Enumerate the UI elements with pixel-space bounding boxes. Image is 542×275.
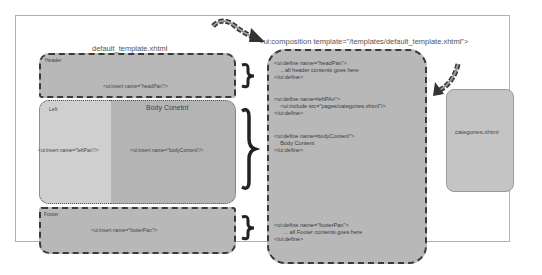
composition-left-block: <ui:define name=leftPAn"> <ui:include sr…: [274, 96, 386, 118]
brace-icons: [238, 55, 268, 255]
header-insert: <ui:insert name="headPan"/>: [103, 83, 168, 89]
footer-insert: <ui:insert name="footerPan"/>: [91, 227, 158, 233]
left-insert: <ui:insert name="leftPan"/>: [38, 147, 99, 153]
template-reference-arrow-icon: [205, 12, 270, 52]
footer-label: Footer: [44, 211, 58, 217]
body-insert: <ui:insert name="bodyContent"/>: [130, 147, 203, 153]
body-title: Body Conetnt: [146, 104, 188, 111]
body-region: Left <ui:insert name="leftPan"/> Body Co…: [39, 100, 236, 204]
include-region: categories.xhtml: [446, 89, 514, 192]
composition-body-block: <ui:define name=bodyContent"> Body Conte…: [274, 133, 354, 155]
footer-region: Footer <ui:insert name="footerPan"/>: [39, 207, 236, 254]
left-region: Left <ui:insert name="leftPan"/>: [39, 100, 111, 204]
composition-footer-block: <ui:define name="footerPan"> ... all Foo…: [274, 222, 362, 244]
header-label: Header: [45, 57, 61, 63]
left-label: Left: [49, 106, 57, 112]
composition-region: <ui:define name="headPan"> ...all header…: [267, 49, 427, 264]
include-label: categories.xhtml: [455, 129, 499, 135]
composition-title: <ui:composition template="/templates/def…: [259, 37, 468, 46]
header-region: Header <ui:insert name="headPan"/>: [39, 53, 236, 98]
include-reference-arrow-icon: [430, 58, 465, 98]
composition-header-block: <ui:define name="headPan"> ...all header…: [274, 60, 359, 82]
template-title: default_template.xhtml: [92, 44, 167, 53]
